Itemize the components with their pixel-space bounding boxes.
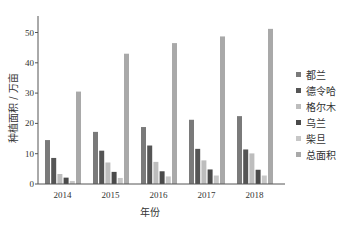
legend-swatch-icon — [296, 152, 301, 157]
bar — [141, 127, 146, 184]
y-tick-label: 40 — [25, 58, 35, 68]
bar — [118, 178, 123, 184]
bar — [64, 178, 69, 184]
bar — [214, 176, 219, 184]
y-tick-label: 20 — [25, 118, 35, 128]
bar — [76, 92, 81, 184]
x-tick-label: 2016 — [150, 190, 169, 200]
bar — [153, 162, 158, 184]
bar — [105, 162, 110, 184]
legend-item: 格尔木 — [296, 98, 336, 114]
legend-item: 都兰 — [296, 66, 336, 82]
legend-swatch-icon — [296, 120, 301, 125]
legend-item: 德令哈 — [296, 82, 336, 98]
bar — [268, 29, 273, 184]
bar — [208, 169, 213, 184]
bar — [243, 149, 248, 184]
y-axis: 01020304050 — [25, 16, 38, 189]
bar — [45, 140, 50, 184]
legend-swatch-icon — [296, 104, 301, 109]
legend-swatch-icon — [296, 136, 301, 141]
bar — [195, 149, 200, 184]
legend-label: 乌兰 — [306, 115, 326, 130]
legend-label: 格尔木 — [306, 99, 336, 114]
x-tick-label: 2015 — [102, 190, 121, 200]
bars — [45, 29, 273, 184]
x-tick-label: 2014 — [54, 190, 73, 200]
bar-chart: 01020304050 20142015201620172018 年份 种植面积… — [0, 0, 346, 227]
bar — [99, 151, 104, 184]
bar — [57, 174, 62, 184]
bar — [256, 170, 261, 184]
legend-label: 德令哈 — [306, 83, 336, 98]
legend-item: 乌兰 — [296, 114, 336, 130]
legend-label: 都兰 — [306, 67, 326, 82]
bar — [262, 176, 267, 184]
y-tick-label: 50 — [25, 28, 35, 38]
bar — [147, 146, 152, 184]
bar — [124, 54, 129, 184]
bar — [237, 116, 242, 184]
bar — [93, 132, 98, 184]
y-axis-title: 种植面积 / 万亩 — [7, 73, 19, 143]
x-axis-title: 年份 — [140, 206, 160, 218]
legend-item: 柴旦 — [296, 130, 336, 146]
legend: 都兰德令哈格尔木乌兰柴旦总面积 — [296, 66, 336, 162]
y-tick-label: 30 — [25, 88, 35, 98]
bar — [220, 36, 225, 184]
bar — [172, 43, 177, 184]
bar — [189, 120, 194, 184]
x-tick-label: 2018 — [246, 190, 265, 200]
bar — [51, 158, 56, 184]
bar — [112, 172, 117, 184]
bar — [160, 171, 165, 184]
legend-swatch-icon — [296, 72, 301, 77]
bar — [166, 176, 171, 184]
x-axis: 20142015201620172018 — [38, 184, 285, 200]
x-tick-label: 2017 — [198, 190, 217, 200]
bar — [201, 160, 206, 184]
bar — [249, 153, 254, 184]
y-tick-label: 10 — [25, 149, 35, 159]
legend-label: 柴旦 — [306, 131, 326, 146]
legend-label: 总面积 — [306, 147, 336, 162]
y-tick-label: 0 — [30, 179, 35, 189]
legend-item: 总面积 — [296, 146, 336, 162]
legend-swatch-icon — [296, 88, 301, 93]
